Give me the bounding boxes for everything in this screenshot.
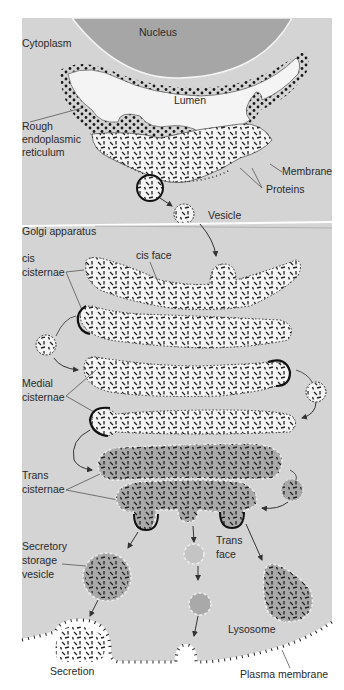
secretory-storage-vesicle bbox=[83, 553, 131, 601]
label-cis-cisternae-1: cis bbox=[22, 252, 35, 264]
label-rough-er-2: endoplasmic bbox=[22, 133, 81, 145]
trans-cisterna-1 bbox=[98, 444, 282, 480]
label-rough-er-3: reticulum bbox=[22, 146, 65, 158]
label-secretory-3: vesicle bbox=[22, 568, 54, 580]
secretion-proteins bbox=[55, 626, 105, 662]
label-cis-face: cis face bbox=[136, 249, 172, 261]
label-lysosome: Lysosome bbox=[228, 623, 276, 635]
label-medial-cisternae-1: Medial bbox=[22, 377, 53, 389]
label-trans-cisternae-1: Trans bbox=[22, 469, 48, 481]
label-secretory-1: Secretory bbox=[22, 540, 68, 552]
label-lumen: Lumen bbox=[174, 94, 206, 106]
label-proteins: Proteins bbox=[266, 183, 305, 195]
label-plasma-membrane: Plasma membrane bbox=[240, 668, 328, 680]
label-golgi: Golgi apparatus bbox=[22, 225, 96, 237]
label-trans-face-2: face bbox=[216, 548, 236, 560]
secretory-pathway-diagram: Nucleus Cytoplasm Lumen Rough endoplasmi… bbox=[0, 0, 344, 690]
label-nucleus: Nucleus bbox=[139, 26, 177, 38]
label-medial-cisternae-2: cisternae bbox=[22, 391, 65, 403]
label-secretion: Secretion bbox=[50, 665, 95, 677]
label-trans-cisternae-2: cisternae bbox=[22, 483, 65, 495]
lysosome-vesicle bbox=[189, 593, 211, 615]
label-cytoplasm: Cytoplasm bbox=[22, 37, 72, 49]
label-membrane: Membrane bbox=[282, 165, 332, 177]
label-vesicle: Vesicle bbox=[208, 209, 241, 221]
label-trans-face-1: Trans bbox=[216, 534, 242, 546]
label-cis-cisternae-2: cisternae bbox=[22, 266, 65, 278]
label-rough-er-1: Rough bbox=[22, 120, 53, 132]
transport-vesicle-trans bbox=[184, 544, 204, 564]
label-secretory-2: storage bbox=[22, 554, 57, 566]
